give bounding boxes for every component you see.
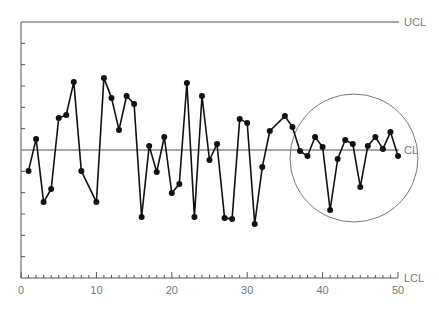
x-tick-label: 30 bbox=[241, 284, 253, 296]
labels: UCLCLLCL bbox=[404, 16, 426, 284]
control-chart: 01020304050 UCLCLLCL bbox=[0, 0, 439, 313]
data-point bbox=[222, 215, 228, 221]
data-point bbox=[71, 79, 77, 85]
data-point bbox=[297, 148, 303, 154]
x-tick-label: 40 bbox=[316, 284, 328, 296]
data-point bbox=[207, 157, 213, 163]
data-point bbox=[312, 134, 318, 140]
data-point bbox=[229, 216, 235, 222]
data-point bbox=[146, 143, 152, 149]
data-point bbox=[387, 129, 393, 135]
lcl-label: LCL bbox=[404, 272, 424, 284]
data-point bbox=[335, 156, 341, 162]
data-point bbox=[184, 80, 190, 86]
data-point bbox=[259, 164, 265, 170]
data-point bbox=[154, 169, 160, 175]
x-axis-ticks: 01020304050 bbox=[18, 272, 404, 296]
data-point bbox=[131, 101, 137, 107]
data-point bbox=[78, 168, 84, 174]
data-point bbox=[124, 93, 130, 99]
data-point bbox=[116, 127, 122, 133]
data-point bbox=[244, 120, 250, 126]
data-point bbox=[169, 190, 175, 196]
series-line bbox=[29, 78, 399, 224]
ucl-label: UCL bbox=[404, 16, 426, 28]
data-point bbox=[327, 207, 333, 213]
data-point bbox=[320, 144, 326, 150]
data-point bbox=[289, 124, 295, 130]
data-point bbox=[48, 186, 54, 192]
data-point bbox=[342, 137, 348, 143]
data-point bbox=[191, 214, 197, 220]
x-tick-label: 10 bbox=[90, 284, 102, 296]
data-point bbox=[357, 184, 363, 190]
data-point bbox=[41, 199, 47, 205]
data-point bbox=[372, 134, 378, 140]
data-point bbox=[161, 134, 167, 140]
data-point bbox=[63, 112, 69, 118]
data-point bbox=[252, 221, 258, 227]
data-point bbox=[26, 168, 32, 174]
data-point bbox=[305, 153, 311, 159]
data-point bbox=[139, 214, 145, 220]
data-point bbox=[33, 136, 39, 142]
data-point bbox=[237, 116, 243, 122]
data-point bbox=[214, 141, 220, 147]
x-tick-label: 20 bbox=[166, 284, 178, 296]
data-point bbox=[267, 128, 273, 134]
x-tick-label: 50 bbox=[392, 284, 404, 296]
data-point bbox=[380, 146, 386, 152]
data-point bbox=[56, 115, 62, 121]
data-point bbox=[365, 143, 371, 149]
data-point bbox=[176, 181, 182, 187]
data-point bbox=[350, 141, 356, 147]
data-series bbox=[26, 75, 401, 227]
data-point bbox=[395, 153, 401, 159]
data-point bbox=[108, 95, 114, 101]
data-point bbox=[282, 113, 288, 119]
data-point bbox=[93, 199, 99, 205]
x-tick-label: 0 bbox=[18, 284, 24, 296]
data-point bbox=[199, 93, 205, 99]
cl-label: CL bbox=[404, 144, 418, 156]
data-point bbox=[101, 75, 107, 81]
